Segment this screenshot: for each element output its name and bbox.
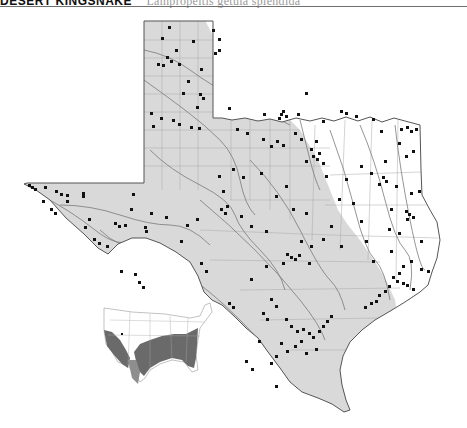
texas-range-map xyxy=(0,0,467,428)
us-inset-map xyxy=(104,303,212,384)
range-shading xyxy=(0,0,400,428)
